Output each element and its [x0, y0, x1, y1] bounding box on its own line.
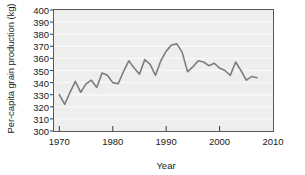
- chart-container: Per-capita grain production (kg) 3003103…: [0, 0, 305, 175]
- x-tick-label: 1980: [102, 136, 123, 147]
- plot-area: [53, 9, 274, 132]
- x-tick-label: 1970: [49, 136, 70, 147]
- x-tick-label: 2010: [262, 136, 283, 147]
- x-axis-title: Year: [58, 160, 274, 171]
- data-line-series: [54, 10, 273, 131]
- x-tick-label: 1990: [156, 136, 177, 147]
- x-tick-label: 2000: [209, 136, 230, 147]
